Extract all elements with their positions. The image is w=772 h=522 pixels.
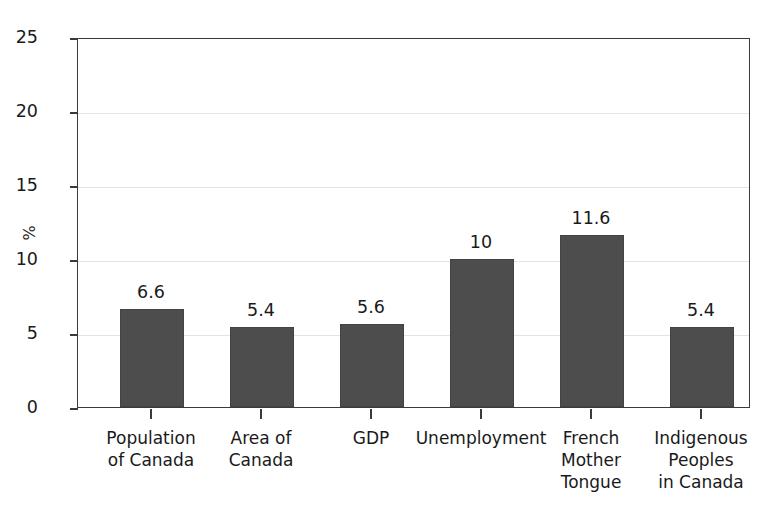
x-axis-tick — [370, 409, 371, 419]
y-axis-tick-label: 5 — [27, 325, 38, 343]
bar — [230, 327, 294, 407]
bar — [450, 259, 514, 407]
bar — [340, 324, 404, 407]
bar-value-label: 5.6 — [357, 299, 385, 317]
bar — [670, 327, 734, 407]
gridline — [78, 187, 749, 188]
bar-value-label: 5.4 — [687, 302, 715, 320]
bar-value-label: 11.6 — [572, 210, 611, 228]
x-axis-tick — [260, 409, 261, 419]
bar-value-label: 6.6 — [137, 284, 165, 302]
bar-chart: % 0510152025 Population of CanadaArea of… — [0, 0, 772, 522]
y-axis-tick — [70, 112, 78, 113]
y-axis-tick-label: 15 — [16, 177, 38, 195]
x-axis-tick — [590, 409, 591, 419]
gridline — [78, 113, 749, 114]
y-axis-tick-label: 10 — [16, 251, 38, 269]
x-axis-category-label: Area of Canada — [229, 428, 294, 472]
x-axis-category-label: Unemployment — [416, 428, 547, 450]
y-axis-tick — [70, 408, 78, 409]
y-axis-tick — [70, 334, 78, 335]
y-axis-title: % — [22, 225, 38, 240]
plot-area — [77, 38, 750, 408]
x-axis-tick — [480, 409, 481, 419]
x-axis-category-label: Population of Canada — [106, 428, 195, 472]
bar — [560, 235, 624, 407]
y-axis-tick-label: 25 — [16, 29, 38, 47]
gridline — [78, 261, 749, 262]
y-axis-tick-label: 20 — [16, 103, 38, 121]
bar — [120, 309, 184, 407]
y-axis-tick-label: 0 — [27, 399, 38, 417]
x-axis-category-label: French Mother Tongue — [561, 428, 622, 493]
x-axis-category-label: Indigenous Peoples in Canada — [654, 428, 747, 493]
x-axis-tick — [700, 409, 701, 419]
x-axis-tick — [150, 409, 151, 419]
bar-value-label: 5.4 — [247, 302, 275, 320]
bar-value-label: 10 — [470, 234, 492, 252]
x-axis-category-label: GDP — [353, 428, 390, 450]
y-axis-tick — [70, 186, 78, 187]
y-axis-tick — [70, 38, 78, 39]
y-axis-tick — [70, 260, 78, 261]
